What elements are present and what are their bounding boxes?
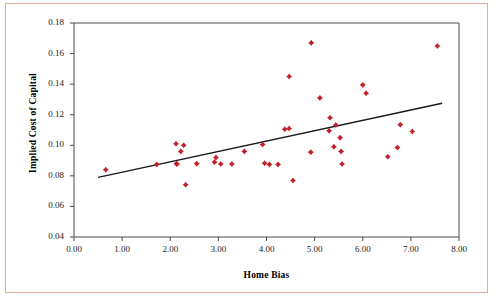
data-point-marker	[218, 161, 224, 167]
data-point-marker	[434, 43, 440, 49]
data-point-marker	[241, 148, 247, 154]
data-point-marker	[213, 155, 219, 161]
y-axis-ticks	[70, 23, 74, 237]
data-point-marker	[290, 177, 296, 183]
data-point-marker	[339, 161, 345, 167]
data-point-marker	[178, 148, 184, 154]
data-point-marker	[327, 115, 333, 121]
y-tick-label: 0.16	[30, 48, 64, 58]
x-tick-label: 4.00	[247, 244, 287, 254]
y-tick-label: 0.06	[30, 200, 64, 210]
data-point-marker	[282, 126, 288, 132]
data-point-marker	[275, 161, 281, 167]
data-point-marker	[338, 148, 344, 154]
data-point-marker	[286, 74, 292, 80]
data-point-marker	[337, 135, 343, 141]
y-tick-label: 0.14	[30, 78, 64, 88]
x-axis-ticks	[74, 237, 459, 241]
data-point-marker	[229, 161, 235, 167]
y-tick-label: 0.12	[30, 109, 64, 119]
data-point-marker	[409, 129, 415, 135]
y-tick-label: 0.04	[30, 231, 64, 241]
y-tick-label: 0.08	[30, 170, 64, 180]
data-point-marker	[194, 161, 200, 167]
data-point-marker	[181, 142, 187, 148]
data-point-marker	[266, 161, 272, 167]
x-tick-label: 2.00	[150, 244, 190, 254]
data-point-marker	[286, 125, 292, 131]
data-point-marker	[308, 149, 314, 155]
data-point-marker	[173, 141, 179, 147]
data-point-marker	[183, 182, 189, 188]
x-tick-label: 8.00	[439, 244, 479, 254]
data-point-marker	[317, 95, 323, 101]
data-point-marker	[397, 122, 403, 128]
data-point-marker	[154, 161, 160, 167]
y-tick-label: 0.18	[30, 17, 64, 27]
axis-lines	[74, 23, 459, 237]
data-point-marker	[308, 40, 314, 46]
data-point-marker	[331, 144, 337, 150]
data-point-marker	[394, 145, 400, 151]
data-point-marker	[262, 160, 268, 166]
data-point-marker	[174, 161, 180, 167]
x-tick-label: 1.00	[102, 244, 142, 254]
data-point-marker	[385, 154, 391, 160]
scatter-chart: Implied Cost of Capital Home Bias 0.040.…	[0, 0, 495, 300]
x-tick-label: 0.00	[54, 244, 94, 254]
data-point-marker	[363, 90, 369, 96]
data-point-marker	[212, 159, 218, 165]
plot-canvas	[0, 0, 495, 300]
x-tick-label: 3.00	[198, 244, 238, 254]
x-tick-label: 5.00	[295, 244, 335, 254]
x-tick-label: 7.00	[391, 244, 431, 254]
y-tick-label: 0.10	[30, 139, 64, 149]
data-point-marker	[103, 167, 109, 173]
data-point-marker	[360, 82, 366, 88]
x-tick-label: 6.00	[343, 244, 383, 254]
